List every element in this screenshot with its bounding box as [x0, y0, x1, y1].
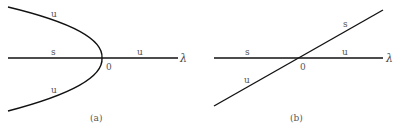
- panel-a-caption: (a): [90, 113, 102, 123]
- panel-a-label-right-axis: u: [137, 47, 143, 57]
- panel-b-caption: (b): [290, 113, 303, 123]
- panel-a: u s u u 0 λ (a): [8, 7, 187, 123]
- panel-a-lambda-label: λ: [179, 52, 187, 65]
- panel-a-origin-label: 0: [106, 62, 112, 72]
- panel-b-origin-label: 0: [300, 62, 306, 72]
- panel-a-label-lower-branch: u: [51, 85, 57, 95]
- panel-b-label-upper-diagonal: s: [343, 19, 348, 29]
- panel-a-label-left-axis: s: [51, 47, 56, 57]
- panel-b-label-lower-diagonal: u: [244, 75, 250, 85]
- bifurcation-diagrams: u s u u 0 λ (a) s s u u 0 λ (b): [0, 0, 398, 132]
- panel-a-label-upper-branch: u: [51, 9, 57, 19]
- panel-b-label-left-axis: s: [245, 47, 250, 57]
- panel-b-lambda-label: λ: [385, 52, 393, 65]
- panel-a-parabola-branch: [8, 7, 102, 111]
- panel-b: s s u u 0 λ (b): [214, 10, 393, 123]
- panel-b-label-right-axis: u: [342, 47, 348, 57]
